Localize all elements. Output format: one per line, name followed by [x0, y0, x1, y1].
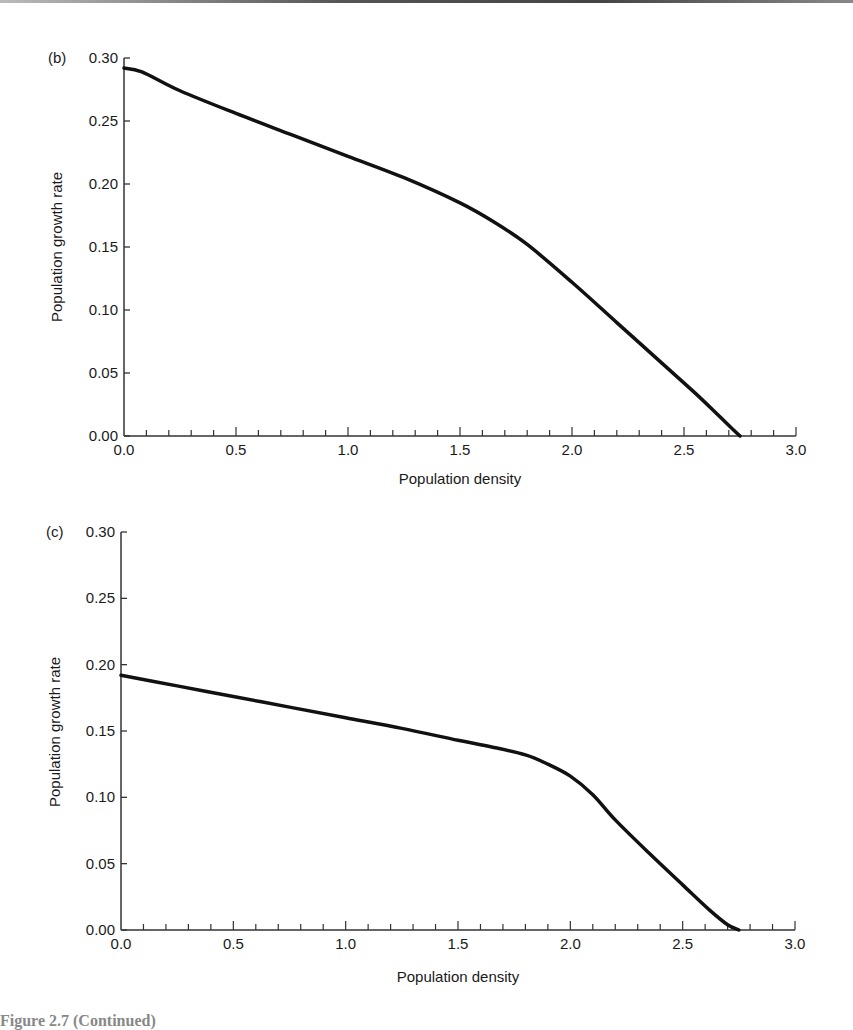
- x-tick-label: 3.0: [785, 935, 806, 952]
- figure-caption: Figure 2.7 (Continued): [0, 1012, 156, 1030]
- y-tick-label: 0.15: [86, 722, 115, 739]
- y-tick-label: 0.25: [86, 589, 115, 606]
- x-axis: 0.00.51.01.52.02.53.0: [111, 921, 806, 952]
- chart-panel-c: (c) 0.000.050.100.150.200.250.30 0.00.51…: [0, 0, 853, 1000]
- y-axis-title: Population growth rate: [46, 657, 63, 807]
- x-tick-label: 0.0: [111, 935, 132, 952]
- panel-label-c: (c): [46, 523, 64, 540]
- x-tick-label: 2.0: [560, 935, 581, 952]
- x-tick-label: 1.5: [448, 935, 469, 952]
- growth-rate-curve-c: [121, 675, 739, 930]
- x-tick-label: 2.5: [672, 935, 693, 952]
- x-tick-label: 0.5: [223, 935, 244, 952]
- y-axis: 0.000.050.100.150.200.250.30: [86, 523, 127, 938]
- y-tick-label: 0.30: [86, 523, 115, 540]
- y-tick-label: 0.20: [86, 656, 115, 673]
- x-tick-label: 1.0: [335, 935, 356, 952]
- y-tick-label: 0.10: [86, 788, 115, 805]
- y-tick-label: 0.05: [86, 855, 115, 872]
- x-axis-title: Population density: [397, 968, 520, 985]
